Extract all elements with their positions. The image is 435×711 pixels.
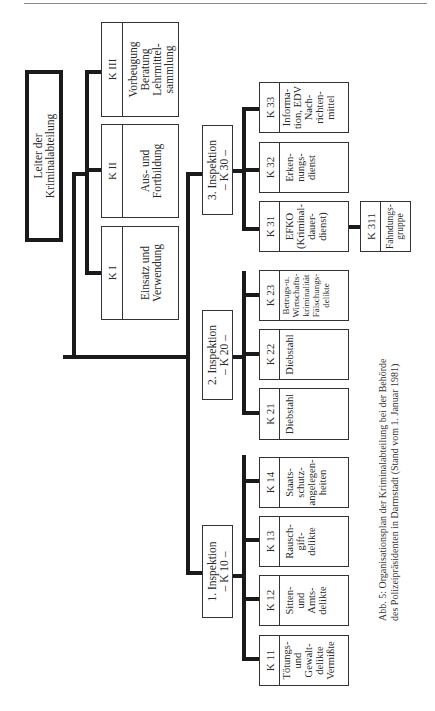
unit-label: Tötungs- und Gewalt- delikte Vermißte	[280, 636, 348, 685]
unit-code: K 23	[260, 271, 280, 320]
unit-k2: K II Aus- und Fortbildung	[101, 124, 179, 218]
connector-k311	[349, 225, 360, 229]
connector-k33	[242, 107, 259, 111]
unit-k11: K 11 Tötungs- und Gewalt- delikte Vermiß…	[259, 635, 349, 686]
unit-code: K 21	[260, 389, 280, 439]
connector-root-trunk	[63, 355, 190, 359]
connector-k23	[242, 293, 259, 297]
unit-label: Informa- tion, EDV Nach- richten- mittel	[280, 83, 348, 132]
inspection-1-box: 1. Inspektion – K 10 –	[202, 525, 233, 618]
unit-k23: K 23 Betrugs-u. Wirtschafts- kriminalitä…	[259, 270, 349, 321]
unit-label: Diebstahl	[280, 389, 348, 439]
connector-k32	[242, 168, 259, 172]
unit-label: EFKO (Kriminal- dauer- dienst)	[280, 202, 348, 251]
connector-insp1-stem	[233, 574, 244, 578]
unit-code: K 33	[260, 83, 280, 132]
connector-k22	[242, 352, 259, 356]
inspection-2-box: 2. Inspektion – K 20 –	[202, 310, 233, 400]
connector-k12	[242, 597, 259, 601]
unit-code: K 31	[260, 202, 280, 251]
unit-label: Vorbeugung Beratung Lehrmittel- sammlung	[123, 23, 178, 116]
unit-label: Diebstahl	[280, 330, 348, 379]
unit-k1: K I Einsatz und Verwendung	[101, 226, 179, 320]
unit-code: K 14	[260, 458, 280, 507]
connector-k13	[242, 538, 259, 542]
unit-k14: K 14 Staats- schutz- angelegen- heiten	[259, 457, 349, 508]
unit-k33: K 33 Informa- tion, EDV Nach- richten- m…	[259, 82, 349, 133]
unit-label: Sitten- und Amts- delikte	[280, 576, 348, 625]
unit-code: K III	[102, 23, 123, 116]
connector-k31	[242, 227, 259, 231]
unit-code: K 22	[260, 330, 280, 379]
figure-caption: Abb. 5: Organisationsplan der Kriminalab…	[377, 241, 401, 621]
unit-code: K I	[102, 227, 123, 319]
unit-label: Erken- nungs- dienst	[280, 143, 348, 192]
unit-k12: K 12 Sitten- und Amts- delikte	[259, 575, 349, 626]
unit-k22: K 22 Diebstahl	[259, 329, 349, 380]
unit-code: K II	[102, 125, 123, 217]
connector-k21	[242, 411, 259, 415]
unit-k13: K 13 Rausch- gift- delikte	[259, 516, 349, 567]
unit-k31: K 31 EFKO (Kriminal- dauer- dienst)	[259, 201, 349, 252]
unit-k3: K III Vorbeugung Beratung Lehrmittel- sa…	[101, 22, 179, 117]
connector-k1	[85, 271, 101, 275]
connector-insp1-bus	[242, 455, 246, 661]
unit-code: K 32	[260, 143, 280, 192]
connector-k3	[85, 70, 101, 74]
unit-k21: K 21 Diebstahl	[259, 388, 349, 440]
org-chart: Leiter der Kriminalabteilung K I Einsatz…	[0, 0, 435, 711]
unit-label: Staats- schutz- angelegen- heiten	[280, 458, 348, 507]
unit-label: Einsatz und Verwendung	[123, 227, 178, 319]
connector-k11	[242, 657, 259, 661]
root-leiter-box: Leiter der Kriminalabteilung	[25, 70, 63, 242]
connector-inspection-bus	[186, 172, 190, 575]
unit-code: K 11	[260, 636, 280, 685]
connector-insp1	[186, 571, 202, 575]
inspection-3-box: 3. Inspektion – K 30 –	[202, 125, 233, 215]
unit-label: Rausch- gift- delikte	[280, 517, 348, 566]
connector-k14	[242, 479, 259, 483]
unit-label: Aus- und Fortbildung	[123, 125, 178, 217]
connector-k2	[85, 168, 101, 172]
unit-k32: K 32 Erken- nungs- dienst	[259, 142, 349, 193]
unit-label: Betrugs-u. Wirtschafts- kriminalität Fäl…	[280, 271, 348, 320]
connector-staff-bus	[85, 70, 89, 275]
unit-code: K 12	[260, 576, 280, 625]
unit-code: K 13	[260, 517, 280, 566]
connector-insp3	[186, 172, 202, 176]
connector-staff-trunk	[72, 172, 76, 357]
